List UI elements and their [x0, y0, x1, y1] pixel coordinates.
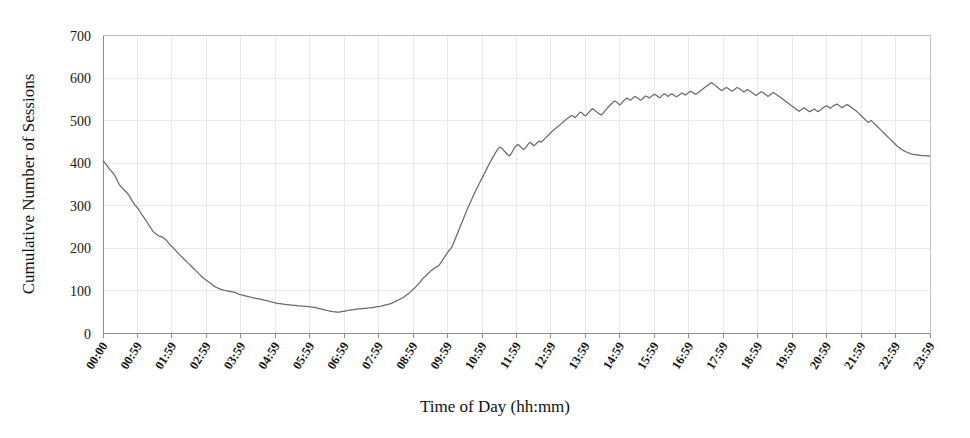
- x-tick-label: 07:59: [359, 340, 386, 372]
- y-tick-label: 700: [70, 29, 91, 44]
- y-tick-labels: 0100200300400500600700: [70, 29, 91, 342]
- x-tick-label: 11:59: [497, 340, 524, 372]
- y-tick-label: 300: [70, 199, 91, 214]
- x-tick-label: 17:59: [703, 340, 730, 372]
- y-tick-label: 500: [70, 114, 91, 129]
- y-tick-label: 0: [84, 327, 91, 342]
- line-chart: 0100200300400500600700 00:0000:5901:5902…: [0, 0, 970, 438]
- x-tick-label: 00:59: [118, 340, 145, 372]
- x-tick-label: 14:59: [600, 340, 627, 372]
- x-tick-label: 12:59: [531, 340, 558, 372]
- x-tick-label: 13:59: [566, 340, 593, 372]
- x-tick-label: 08:59: [393, 340, 420, 372]
- x-tick-label: 16:59: [669, 340, 696, 372]
- y-tick-label: 600: [70, 71, 91, 86]
- x-tick-label: 03:59: [221, 340, 248, 372]
- x-tick-label: 22:59: [876, 340, 903, 372]
- x-tick-label: 05:59: [290, 340, 317, 372]
- x-tick-label: 04:59: [256, 340, 283, 372]
- x-axis-title: Time of Day (hh:mm): [420, 397, 570, 416]
- vertical-gridlines: [137, 36, 895, 334]
- x-tick-marks: [103, 334, 930, 338]
- x-tick-label: 02:59: [187, 340, 214, 372]
- chart-container: 0100200300400500600700 00:0000:5901:5902…: [0, 0, 970, 438]
- x-tick-label: 01:59: [152, 340, 179, 372]
- x-tick-label: 15:59: [635, 340, 662, 372]
- x-tick-label: 23:59: [910, 340, 937, 372]
- y-tick-label: 200: [70, 241, 91, 256]
- y-tick-label: 400: [70, 156, 91, 171]
- x-tick-label: 06:59: [324, 340, 351, 372]
- y-tick-label: 100: [70, 284, 91, 299]
- x-tick-label: 18:59: [738, 340, 765, 372]
- x-tick-label: 00:00: [83, 340, 110, 372]
- x-tick-label: 09:59: [428, 340, 455, 372]
- x-tick-labels: 00:0000:5901:5902:5903:5904:5905:5906:59…: [83, 340, 937, 372]
- x-tick-label: 20:59: [807, 340, 834, 372]
- x-tick-label: 10:59: [462, 340, 489, 372]
- x-tick-label: 19:59: [772, 340, 799, 372]
- y-axis-title: Cumulative Number of Sessions: [19, 74, 38, 295]
- x-tick-label: 21:59: [841, 340, 868, 372]
